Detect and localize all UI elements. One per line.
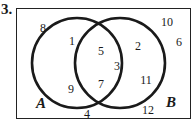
set-label-b: B (166, 95, 176, 110)
b-only-value-2: 2 (135, 40, 141, 52)
circle-b (75, 18, 165, 108)
a-only-value-1: 1 (69, 35, 75, 47)
intersection-value-5: 5 (98, 45, 104, 57)
outside-value-6: 6 (176, 36, 182, 48)
outside-value-12: 12 (142, 104, 154, 116)
outside-value-10: 10 (161, 16, 173, 28)
intersection-value-3: 3 (114, 60, 120, 72)
intersection-value-7: 7 (98, 78, 104, 90)
outside-value-8: 8 (40, 22, 46, 34)
b-only-value-11: 11 (140, 74, 152, 86)
set-label-a: A (36, 96, 46, 111)
outside-value-4: 4 (84, 108, 90, 120)
a-only-value-9: 9 (68, 83, 74, 95)
